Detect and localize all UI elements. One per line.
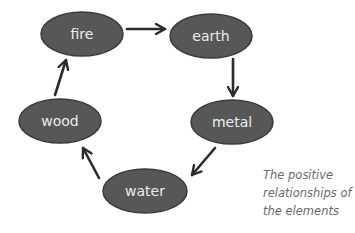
caption-line-3: the elements: [263, 202, 355, 220]
caption-line-2: relationships of: [263, 184, 355, 202]
arrow-water-to-wood: [83, 148, 99, 178]
node-metal: metal: [191, 100, 273, 144]
node-label: fire: [71, 26, 94, 42]
arrow-metal-to-water: [192, 148, 215, 175]
node-label: water: [125, 183, 165, 199]
nodes-group: fireearthmetalwaterwood: [19, 12, 273, 213]
diagram-caption: The positive relationships of the elemen…: [263, 166, 355, 220]
caption-line-1: The positive: [263, 166, 355, 184]
node-earth: earth: [170, 14, 252, 58]
node-fire: fire: [41, 12, 123, 56]
node-label: metal: [212, 114, 252, 130]
node-label: wood: [41, 113, 78, 129]
arrow-wood-to-fire: [55, 60, 66, 95]
node-water: water: [103, 169, 187, 213]
node-wood: wood: [19, 99, 101, 143]
node-label: earth: [192, 28, 229, 44]
